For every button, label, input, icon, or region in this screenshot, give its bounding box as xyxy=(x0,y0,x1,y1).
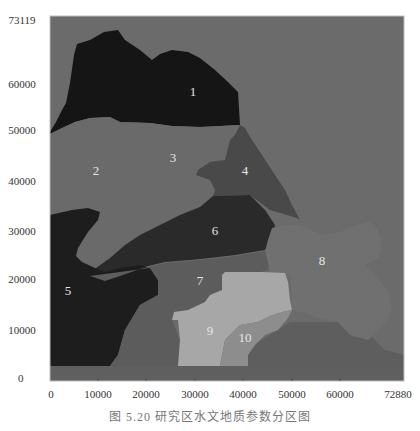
zone-label-1: 1 xyxy=(190,84,197,99)
x-tick-label: 30000 xyxy=(181,388,209,400)
zone-label-6: 6 xyxy=(212,223,219,238)
zone-bottom-strip xyxy=(50,366,404,381)
zone-label-3: 3 xyxy=(170,150,177,165)
zoning-map-figure: 73119 60000 50000 40000 30000 20000 1000… xyxy=(0,0,420,431)
x-tick-label: 72880 xyxy=(384,388,412,400)
zone-label-9: 9 xyxy=(207,323,214,338)
zone-label-4: 4 xyxy=(242,163,249,178)
x-tick-label: 40000 xyxy=(229,388,257,400)
zone-label-5: 5 xyxy=(65,283,72,298)
zone-label-7: 7 xyxy=(197,273,204,288)
x-tick-label: 10000 xyxy=(84,388,112,400)
zone-label-10: 10 xyxy=(239,330,252,345)
x-tick-label: 20000 xyxy=(132,388,160,400)
x-tick-label: 50000 xyxy=(278,388,306,400)
x-tick-label: 0 xyxy=(48,388,54,400)
x-tick-label: 60000 xyxy=(326,388,354,400)
map-plot-area: 1 2 3 4 5 6 7 8 9 10 xyxy=(0,0,420,431)
figure-caption: 图 5.20 研究区水文地质参数分区图 xyxy=(0,407,420,425)
zone-label-8: 8 xyxy=(319,253,326,268)
zone-label-2: 2 xyxy=(93,163,100,178)
